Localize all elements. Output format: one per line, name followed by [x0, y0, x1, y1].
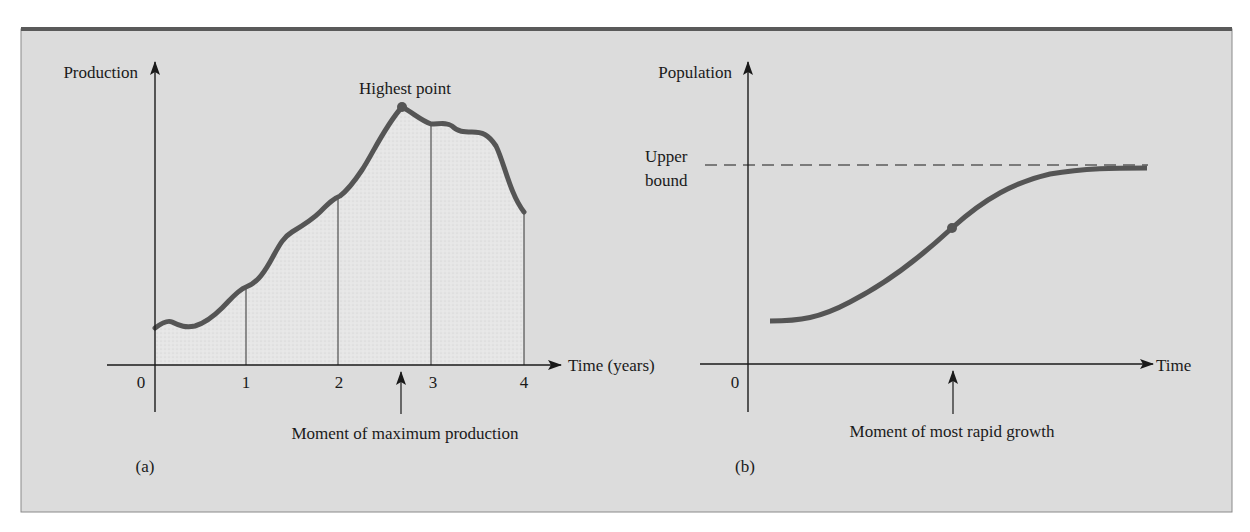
highest-point-marker: [397, 102, 407, 112]
upper-bound-label-line2: bound: [645, 171, 688, 190]
y-axis-label: Production: [63, 63, 138, 82]
caption-b: (b): [735, 457, 755, 476]
y-axis-label: Population: [658, 63, 732, 82]
origin-label: 0: [731, 373, 740, 392]
tick-1: 1: [242, 373, 251, 392]
caption-a: (a): [136, 457, 155, 476]
tick-2: 2: [335, 373, 344, 392]
tick-3: 3: [429, 373, 438, 392]
tick-0: 0: [137, 373, 146, 392]
x-axis-label: Time: [1156, 356, 1191, 375]
upper-bound-label-line1: Upper: [645, 147, 688, 166]
inflection-point-marker: [947, 223, 957, 233]
x-axis-label: Time (years): [568, 356, 655, 375]
max-production-label: Moment of maximum production: [291, 424, 519, 443]
rapid-growth-label: Moment of most rapid growth: [850, 422, 1055, 441]
figure: Production Time (years) 0 1 2 3 4 Highes…: [0, 0, 1250, 532]
tick-4: 4: [520, 373, 529, 392]
highest-point-label: Highest point: [359, 79, 451, 98]
